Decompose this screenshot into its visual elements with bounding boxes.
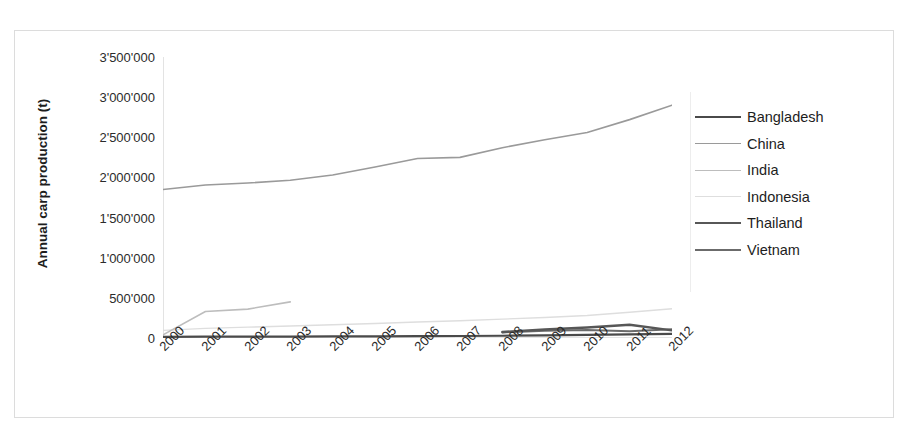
legend-swatch-icon xyxy=(695,170,741,171)
carp-production-chart: Annual carp production (t) 0500'0001'000… xyxy=(0,0,911,439)
y-tick-label: 1'000'000 xyxy=(55,252,155,265)
legend-item-bangladesh[interactable]: Bangladesh xyxy=(695,104,895,131)
series-line-china xyxy=(163,105,672,189)
y-axis-tick-labels: 0500'0001'000'0001'500'0002'000'0002'500… xyxy=(52,57,155,338)
plot-area xyxy=(163,57,672,338)
y-tick-label: 1'500'000 xyxy=(55,212,155,225)
legend-swatch-icon xyxy=(695,249,741,251)
legend-divider xyxy=(690,92,691,292)
legend-item-china[interactable]: China xyxy=(695,131,895,158)
legend-swatch-icon xyxy=(695,222,741,224)
legend-label: Thailand xyxy=(747,216,803,231)
legend-label: China xyxy=(747,137,785,152)
chart-legend: BangladeshChinaIndiaIndonesiaThailandVie… xyxy=(695,104,895,263)
legend-label: Bangladesh xyxy=(747,110,824,125)
y-tick-label: 3'500'000 xyxy=(55,51,155,64)
y-axis-title: Annual carp production (t) xyxy=(35,54,50,314)
y-tick-label: 3'000'000 xyxy=(55,91,155,104)
legend-item-vietnam[interactable]: Vietnam xyxy=(695,237,895,264)
legend-item-indonesia[interactable]: Indonesia xyxy=(695,184,895,211)
legend-swatch-icon xyxy=(695,196,741,197)
x-axis-tick-labels: 2000200120022003200420052006200720082009… xyxy=(163,338,672,418)
legend-swatch-icon xyxy=(695,116,741,118)
y-tick-label: 2'500'000 xyxy=(55,131,155,144)
legend-item-thailand[interactable]: Thailand xyxy=(695,210,895,237)
legend-label: Indonesia xyxy=(747,190,810,205)
series-lines-svg xyxy=(163,57,672,338)
y-tick-label: 500'000 xyxy=(55,292,155,305)
legend-label: India xyxy=(747,163,778,178)
y-tick-label: 2'000'000 xyxy=(55,171,155,184)
legend-item-india[interactable]: India xyxy=(695,157,895,184)
legend-label: Vietnam xyxy=(747,243,800,258)
legend-swatch-icon xyxy=(695,143,741,144)
y-tick-label: 0 xyxy=(55,332,155,345)
